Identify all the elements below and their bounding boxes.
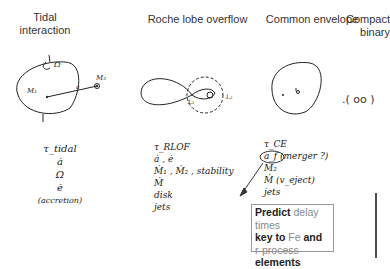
label-m1: M₁: [26, 87, 37, 95]
ce-params: τ_CE a_f (merger ?) M₂ Ṁ (v_eject) jets: [264, 138, 328, 198]
roche-sketch: [141, 77, 223, 113]
label-m2: M₂: [95, 74, 106, 82]
tidal-params: τ_tidal ȧ Ω ė (accretion): [30, 142, 90, 207]
svg-text:L₁: L₁: [187, 98, 194, 105]
ce-sketch: [272, 62, 321, 113]
compact-sketch: .( oo ): [342, 93, 375, 106]
callout-box: Predict delay times key to Fe and r-proc…: [251, 204, 334, 252]
label-omega: Ω: [53, 60, 61, 69]
rlof-params: τ_RLOF ȧ , ė Ṁ₁ , Ṁ₂ , stability Ṁ disk …: [154, 141, 234, 213]
svg-text:a: a: [76, 83, 80, 90]
svg-text:L₂: L₂: [225, 93, 233, 100]
